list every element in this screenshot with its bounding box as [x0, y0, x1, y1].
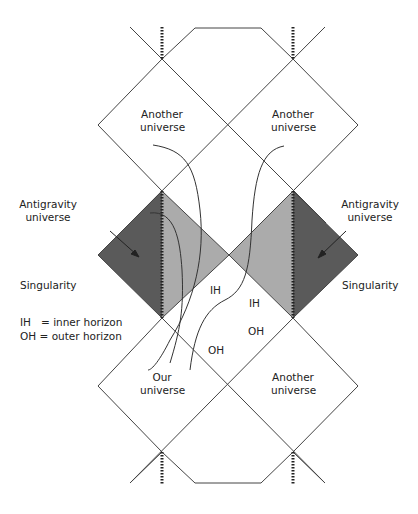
inner-region-left: [162, 191, 229, 318]
diagram-graphic: [0, 0, 418, 514]
label-text: Another: [141, 108, 183, 120]
label-text: Antigravity: [19, 198, 77, 210]
label-antigravity-right: Antigravityuniverse: [340, 198, 400, 224]
label-singularity-right: Singularity: [342, 279, 398, 292]
label-text: Another: [272, 371, 314, 383]
label-text: Our: [152, 371, 171, 383]
label-another-universe-bottom-right: Anotheruniverse: [271, 371, 315, 397]
inner-region-right: [229, 191, 293, 318]
legend-ih: IH = inner horizon: [20, 316, 122, 329]
label-another-universe-top-right: Anotheruniverse: [271, 108, 315, 134]
label-antigravity-left: Antigravityuniverse: [18, 198, 78, 224]
label-oh-left: OH: [208, 344, 224, 357]
legend-oh: OH = outer horizon: [20, 330, 122, 343]
label-text: universe: [271, 384, 316, 396]
antigravity-region-left: [98, 191, 162, 318]
label-text: universe: [140, 121, 185, 133]
label-text: universe: [347, 211, 392, 223]
label-text: universe: [140, 384, 185, 396]
label-text: Antigravity: [341, 198, 399, 210]
label-text: Another: [272, 108, 314, 120]
label-ih-left: IH: [210, 284, 221, 297]
label-text: universe: [271, 121, 316, 133]
label-oh-right: OH: [248, 325, 264, 338]
penrose-diagram: Anotheruniverse Anotheruniverse Antigrav…: [0, 0, 418, 514]
label-text: universe: [25, 211, 70, 223]
label-another-universe-top-left: Anotheruniverse: [140, 108, 184, 134]
label-our-universe: Ouruniverse: [140, 371, 184, 397]
label-singularity-left: Singularity: [20, 279, 76, 292]
label-ih-right: IH: [249, 297, 260, 310]
